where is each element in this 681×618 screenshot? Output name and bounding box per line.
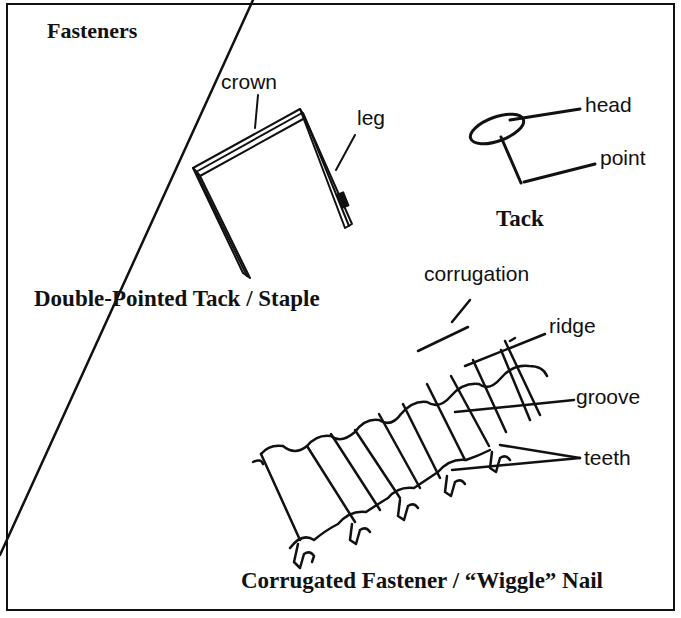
staple-illustration bbox=[193, 95, 355, 278]
tack-illustration bbox=[467, 108, 595, 183]
corrugated-fastener-illustration bbox=[0, 0, 580, 568]
diagram-artwork bbox=[0, 0, 681, 618]
